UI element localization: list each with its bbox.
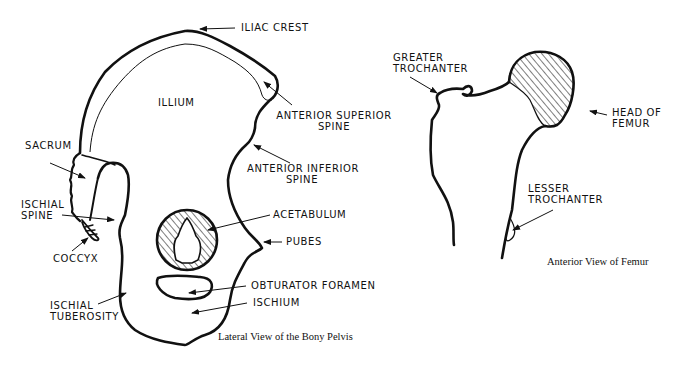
label-anterior-inferior-spine: ANTERIOR INFERIOR SPINE: [247, 163, 357, 185]
label-ischial-tuberosity: ISCHIAL TUBEROSITY: [50, 300, 119, 322]
label-pubes: PUBES: [286, 236, 322, 247]
label-head-of-femur-line2: FEMUR: [612, 118, 661, 129]
label-greater-trochanter-line1: GREATER: [393, 52, 468, 63]
label-ischial-spine-line1: ISCHIAL: [21, 199, 64, 210]
leader-greater-trochanter: [410, 77, 437, 93]
leader-head-of-femur: [590, 111, 607, 115]
label-coccyx: COCCYX: [53, 253, 98, 264]
label-greater-trochanter: GREATER TROCHANTER: [393, 52, 468, 74]
label-anterior-inferior-spine-line1: ANTERIOR INFERIOR: [247, 163, 357, 174]
leader-obturator-foramen: [189, 286, 246, 293]
obturator-foramen-shape: [157, 276, 212, 300]
caption-pelvis: Lateral View of the Bony Pelvis: [218, 331, 353, 342]
leader-lesser-trochanter: [513, 210, 553, 230]
femur-head-hatch: [509, 52, 574, 127]
label-greater-trochanter-line2: TROCHANTER: [393, 63, 468, 74]
label-head-of-femur-line1: HEAD OF: [612, 107, 661, 118]
label-ischial-spine-line2: SPINE: [21, 210, 64, 221]
label-lesser-trochanter-line1: LESSER: [528, 183, 603, 194]
label-lesser-trochanter: LESSER TROCHANTER: [528, 183, 603, 205]
label-head-of-femur: HEAD OF FEMUR: [612, 107, 661, 129]
label-iliac-crest: ILIAC CREST: [241, 22, 309, 33]
label-anterior-superior-spine: ANTERIOR SUPERIOR SPINE: [274, 110, 394, 132]
label-anterior-inferior-spine-line2: SPINE: [247, 174, 357, 185]
label-ischial-tuberosity-line1: ISCHIAL: [50, 300, 119, 311]
label-ischium: ISCHIUM: [253, 297, 300, 308]
leader-coccyx: [72, 238, 88, 251]
label-acetabulum: ACETABULUM: [273, 209, 346, 220]
leader-ischium: [192, 303, 247, 313]
leader-iliac-crest: [200, 28, 235, 29]
leader-ischial-spine: [62, 215, 114, 220]
label-sacrum: SACRUM: [25, 140, 72, 151]
label-ischial-tuberosity-line2: TUBEROSITY: [50, 311, 119, 322]
label-anterior-superior-spine-line2: SPINE: [274, 121, 394, 132]
label-obturator-foramen: OBTURATOR FORAMEN: [251, 280, 376, 291]
leader-anterior-inferior-spine: [254, 145, 290, 163]
caption-femur: Anterior View of Femur: [547, 256, 649, 267]
leader-sacrum: [50, 163, 85, 178]
label-anterior-superior-spine-line1: ANTERIOR SUPERIOR: [274, 110, 394, 121]
label-illium: ILLIUM: [158, 97, 195, 108]
acetabulum-shape: [157, 210, 217, 270]
label-lesser-trochanter-line2: TROCHANTER: [528, 194, 603, 205]
label-ischial-spine: ISCHIAL SPINE: [21, 199, 64, 221]
